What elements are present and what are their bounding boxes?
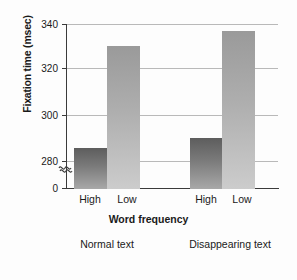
fixation-time-bar-chart: Fixation time (msec) 340 320 300 280 0 H… <box>0 0 297 280</box>
x-tick-label-disappearing-high: High <box>186 193 226 205</box>
x-axis-title: Word frequency <box>0 213 297 225</box>
bar-disappearing-high[interactable] <box>190 138 222 189</box>
y-tick-label-340: 340 <box>24 19 58 30</box>
group-label-normal-text: Normal text <box>52 238 162 250</box>
bar-normal-high[interactable] <box>74 148 107 189</box>
x-tick-label-normal-high: High <box>70 193 110 205</box>
y-tick-label-320: 320 <box>24 63 58 74</box>
x-tick-label-normal-low: Low <box>107 193 147 205</box>
bars-container <box>66 24 279 189</box>
group-label-disappearing-text: Disappearing text <box>175 238 285 250</box>
y-tick-label-280: 280 <box>24 156 58 167</box>
x-tick-label-disappearing-low: Low <box>222 193 262 205</box>
bar-normal-low[interactable] <box>107 46 140 189</box>
y-tick-label-300: 300 <box>24 110 58 121</box>
bar-disappearing-low[interactable] <box>222 31 255 189</box>
y-tick-label-0: 0 <box>24 183 58 194</box>
